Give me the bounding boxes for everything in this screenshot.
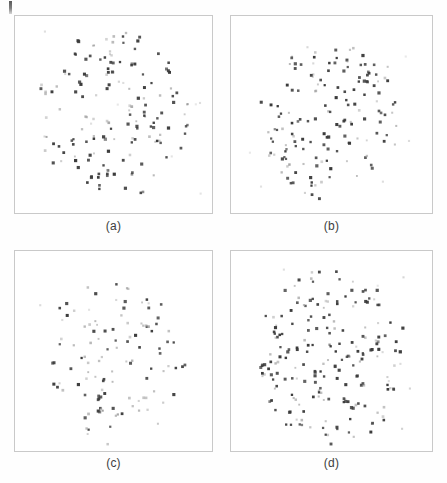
scatter-panel-b [230,15,433,214]
scatter-canvas-c [15,251,212,451]
figure-page: (a) (b) (c) (d) [0,0,447,483]
scatter-panel-d [230,250,433,452]
panel-caption-d: (d) [230,456,433,470]
scan-edge-artifact [9,1,12,14]
panel-caption-a: (a) [14,219,213,233]
scatter-canvas-a [15,16,212,213]
scatter-canvas-b [231,16,432,213]
scatter-panel-c [14,250,213,452]
scatter-canvas-d [231,251,432,451]
panel-caption-c: (c) [14,456,213,470]
panel-caption-b: (b) [230,219,433,233]
scatter-panel-a [14,15,213,214]
